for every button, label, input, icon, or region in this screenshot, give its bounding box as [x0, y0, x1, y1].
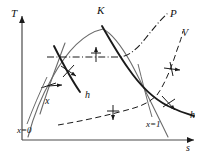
sat-liquid-label: x=0: [17, 126, 32, 135]
isobar-label: P: [170, 8, 177, 19]
isochore-label: V: [182, 28, 188, 38]
isobar-p-arrow-tick: [91, 47, 101, 62]
enthalpy-label-left: h: [85, 90, 90, 100]
critical-point-label: K: [97, 5, 104, 16]
x-axis-label: s: [186, 143, 190, 153]
quality-line-x-curve: [40, 43, 65, 114]
isochore-v-lower-curve: [58, 95, 157, 125]
sat-vapor-leader-line: [138, 64, 152, 117]
enthalpy-label-right: h: [190, 110, 195, 120]
y-axis-label: T: [11, 8, 17, 19]
ts-diagram-figure: T K P V x h h x=0 x=1 s: [0, 0, 207, 158]
quality-label: x: [45, 96, 49, 106]
sat-vapor-label: x=1: [146, 120, 161, 129]
